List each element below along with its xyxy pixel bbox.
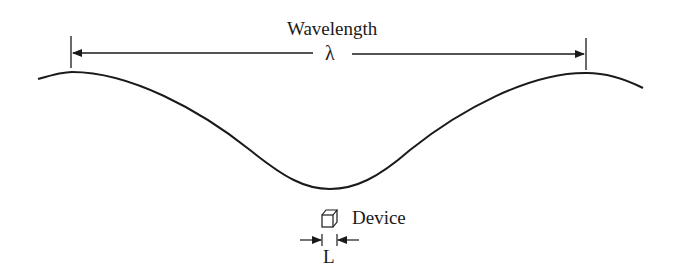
sine-wave-curve <box>38 72 643 189</box>
length-label: L <box>323 246 335 268</box>
device-label: Device <box>352 207 406 229</box>
lambda-symbol: λ <box>325 42 335 65</box>
wave-diagram <box>0 0 677 279</box>
device-cube-icon <box>322 210 337 227</box>
wavelength-label: Wavelength <box>287 18 377 40</box>
